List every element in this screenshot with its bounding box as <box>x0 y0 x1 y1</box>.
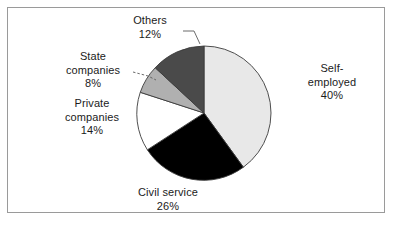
pie-label-state-companies: State companies 8% <box>49 50 137 91</box>
pie-label-others-value: 12% <box>110 28 190 42</box>
pie-label-civil-service-value: 26% <box>104 200 232 214</box>
pie-label-private-companies-line1: Private <box>46 97 138 111</box>
pie-label-state-companies-value: 8% <box>49 77 137 91</box>
pie-label-civil-service: Civil service 26% <box>104 186 232 213</box>
pie-label-private-companies-value: 14% <box>46 124 138 138</box>
pie-label-private-companies-line2: companies <box>46 111 138 125</box>
pie-label-civil-service-line1: Civil service <box>104 186 232 200</box>
pie-label-self-employed-value: 40% <box>290 89 374 103</box>
pie-label-self-employed-line2: employed <box>290 76 374 90</box>
pie-label-self-employed: Self- employed 40% <box>290 62 374 103</box>
pie-label-self-employed-line1: Self- <box>290 62 374 76</box>
pie-label-private-companies: Private companies 14% <box>46 97 138 138</box>
pie-label-state-companies-line2: companies <box>49 64 137 78</box>
pie-label-state-companies-line1: State <box>49 50 137 64</box>
pie-label-others-line1: Others <box>110 14 190 28</box>
pie-chart-figure: Self- employed 40% Others 12% State comp… <box>0 0 397 232</box>
pie-label-others: Others 12% <box>110 14 190 41</box>
